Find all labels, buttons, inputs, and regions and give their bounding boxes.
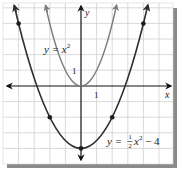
point-4-4 bbox=[141, 21, 146, 26]
point-neg2-neg2 bbox=[48, 115, 53, 120]
equation-parent-text: y = x bbox=[43, 43, 67, 55]
equation-transformed-tail: − 4 bbox=[142, 135, 160, 147]
point-2-neg2 bbox=[110, 115, 115, 120]
point-0-neg4 bbox=[79, 146, 84, 151]
y-tick-label-1: 1 bbox=[72, 66, 77, 76]
svg-text:y = x2: y = x2 bbox=[43, 42, 71, 55]
coordinate-graph: y x 1 1 y = x2 y = 1 2 x2 − 4 bbox=[0, 0, 182, 173]
equation-fraction-numerator: 1 bbox=[128, 133, 131, 140]
equation-transformed-lhs: y = bbox=[106, 135, 122, 147]
point-neg4-4 bbox=[16, 21, 21, 26]
equation-label-parent: y = x2 bbox=[43, 42, 71, 55]
equation-label-transformed: y = 1 2 x2 − 4 bbox=[106, 133, 160, 149]
equation-fraction-denominator: 2 bbox=[128, 142, 131, 149]
x-axis-label: x bbox=[164, 89, 170, 100]
svg-text:x2 − 4: x2 − 4 bbox=[133, 134, 160, 147]
x-tick-label-1: 1 bbox=[94, 90, 99, 100]
y-axis-label: y bbox=[84, 7, 90, 18]
equation-parent-exponent: 2 bbox=[67, 42, 71, 50]
